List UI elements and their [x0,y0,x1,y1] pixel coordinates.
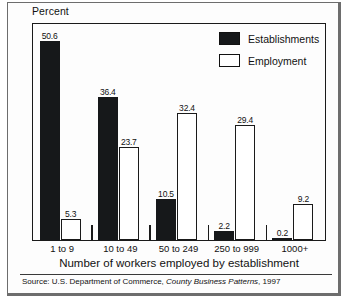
bar-value-label: 10.5 [158,189,174,199]
bar-employment: 32.4 [177,113,197,240]
x-tick-label: 250 to 999 [214,243,259,254]
bars-area: 50.65.336.423.710.532.42.229.40.29.2 [33,24,324,240]
x-axis-tick-labels: 1 to 910 to 4950 to 249250 to 9991000+ [33,243,325,257]
bar-employment: 29.4 [235,125,255,240]
source-publication: County Business Patterns [166,277,258,286]
bar-value-label: 29.4 [237,115,253,125]
bar-value-label: 36.4 [100,87,116,97]
y-axis-caption: Percent [32,5,69,17]
bar-value-label: 2.2 [219,221,230,231]
bar-value-label: 50.6 [42,31,58,41]
bar-value-label: 32.4 [179,103,195,113]
x-tick-label: 1000+ [282,243,309,254]
x-axis-tick [208,225,210,240]
bar-establishments: 0.2 [272,238,292,240]
x-tick-label: 1 to 9 [50,243,74,254]
bar-employment: 5.3 [61,219,81,240]
source-divider [20,274,332,275]
bar-group: 10.532.4 [149,24,207,240]
bar-establishments: 2.2 [214,231,234,240]
bar-establishments: 10.5 [156,199,176,240]
figure-panel: Percent Establishments Employment 50.65.… [7,2,341,296]
bar-group: 2.229.4 [208,24,266,240]
bar-value-label: 23.7 [121,137,137,147]
bar-group: 0.29.2 [266,24,324,240]
bar-employment: 23.7 [119,147,139,240]
bar-group: 50.65.3 [33,24,91,240]
bar-value-label: 5.3 [65,209,76,219]
bar-group: 36.423.7 [91,24,149,240]
bar-employment: 9.2 [293,204,313,240]
x-tick-label: 10 to 49 [103,243,137,254]
source-note: Source: U.S. Department of Commerce, Cou… [22,277,280,286]
bar-establishments: 36.4 [98,97,118,240]
x-axis-tick [266,225,268,240]
bar-value-label: 9.2 [298,194,309,204]
source-suffix: , 1997 [258,277,280,286]
x-axis-tick [91,225,93,240]
bar-establishments: 50.6 [40,41,60,240]
source-prefix: Source: U.S. Department of Commerce, [22,277,164,286]
x-tick-label: 50 to 249 [159,243,199,254]
bar-value-label: 0.2 [277,228,288,238]
x-axis-title: Number of workers employed by establishm… [32,257,326,269]
x-axis-tick [149,225,151,240]
